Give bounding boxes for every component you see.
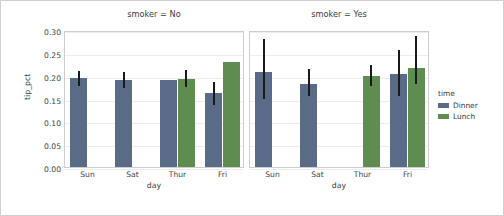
x-axis-tick: Fri xyxy=(403,170,412,179)
chart-figure: tip_pct smoker = No 0.000.050.100.150.20… xyxy=(0,0,504,216)
bar-no-sun-dinner[interactable] xyxy=(70,78,88,167)
error-bar xyxy=(398,50,400,96)
facet-title-smoker-yes: smoker = Yes xyxy=(250,9,428,19)
legend-item-lunch[interactable]: Lunch xyxy=(438,112,478,121)
bar-no-sat-dinner[interactable] xyxy=(115,80,133,167)
legend-label-dinner: Dinner xyxy=(453,101,478,110)
y-axis-tick: 0.30 xyxy=(44,28,61,37)
error-bar xyxy=(263,39,265,100)
plot-area-smoker-yes: SunSatThurFri xyxy=(250,32,428,167)
x-axis-label-left: day xyxy=(65,181,243,190)
error-bar xyxy=(185,70,187,86)
bar-yes-thur-lunch[interactable] xyxy=(363,76,381,167)
y-axis-tick: 0.10 xyxy=(44,119,61,128)
y-axis-tick: 0.00 xyxy=(44,165,61,174)
legend-label-lunch: Lunch xyxy=(453,112,475,121)
x-axis-tick: Sun xyxy=(80,170,94,179)
gridline xyxy=(65,55,243,56)
x-axis-label-right: day xyxy=(250,181,428,190)
gridline xyxy=(65,32,243,33)
error-bar xyxy=(213,82,215,105)
error-bar xyxy=(78,71,80,86)
y-axis-tick: 0.25 xyxy=(44,50,61,59)
x-axis-tick: Fri xyxy=(218,170,227,179)
plot-area-smoker-no: 0.000.050.100.150.200.250.30SunSatThurFr… xyxy=(65,32,243,167)
y-axis-tick: 0.15 xyxy=(44,96,61,105)
legend-swatch-dinner xyxy=(438,103,449,108)
x-axis-tick: Thur xyxy=(169,170,186,179)
facet-panel-smoker-yes: smoker = Yes SunSatThurFri day xyxy=(249,31,429,168)
legend: time Dinner Lunch xyxy=(438,89,478,123)
error-bar xyxy=(415,36,417,83)
bar-yes-sat-dinner[interactable] xyxy=(300,84,318,167)
error-bar xyxy=(308,69,310,96)
gridline xyxy=(250,32,428,33)
y-axis-tick: 0.20 xyxy=(44,73,61,82)
error-bar xyxy=(370,65,372,86)
bar-no-thur-lunch[interactable] xyxy=(178,79,196,167)
bar-no-thur-dinner[interactable] xyxy=(160,80,178,167)
error-bar xyxy=(123,72,125,88)
legend-title: time xyxy=(438,89,478,98)
x-axis-tick: Sat xyxy=(311,170,323,179)
gridline xyxy=(250,55,428,56)
facet-title-smoker-no: smoker = No xyxy=(65,9,243,19)
y-axis-label: tip_pct xyxy=(23,74,32,100)
legend-item-dinner[interactable]: Dinner xyxy=(438,101,478,110)
facet-panel-smoker-no: smoker = No 0.000.050.100.150.200.250.30… xyxy=(64,31,244,168)
legend-swatch-lunch xyxy=(438,114,449,119)
x-axis-tick: Thur xyxy=(354,170,371,179)
gridline xyxy=(65,78,243,79)
y-axis-tick: 0.05 xyxy=(44,142,61,151)
x-axis-tick: Sat xyxy=(126,170,138,179)
x-axis-tick: Sun xyxy=(265,170,279,179)
bar-no-fri-lunch[interactable] xyxy=(223,62,241,167)
